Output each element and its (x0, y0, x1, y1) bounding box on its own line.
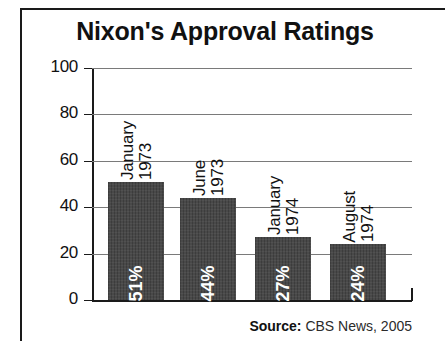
category-label-3: January1974 (255, 155, 311, 235)
source-text: CBS News, 2005 (305, 318, 412, 334)
category-label-line: 1974 (359, 205, 376, 242)
y-tick-label: 100 (32, 57, 78, 77)
y-tick-label: 0 (32, 289, 78, 309)
y-tick-80 (84, 114, 92, 115)
source-note: Source: CBS News, 2005 (150, 318, 412, 334)
source-label: Source: (249, 318, 301, 334)
bar-1: 51% (108, 182, 164, 300)
gridline-100 (92, 68, 412, 69)
bar-2: 44% (180, 198, 236, 300)
category-label-line: 1973 (209, 159, 226, 196)
figure-frame-top-rule (20, 8, 445, 10)
y-tick-label: 40 (32, 196, 78, 216)
category-label-4: August1974 (330, 162, 386, 242)
y-tick-60 (84, 161, 92, 162)
category-label-line: January (119, 121, 136, 180)
category-label-line: 1974 (284, 198, 301, 235)
category-label-line: 1973 (137, 143, 154, 180)
bar-value-label: 51% (126, 265, 147, 301)
y-tick-label: 80 (32, 103, 78, 123)
bar-3: 27% (255, 237, 311, 300)
chart-title: Nixon's Approval Ratings (28, 17, 422, 46)
y-tick-100 (84, 68, 92, 69)
y-tick-40 (84, 207, 92, 208)
y-tick-label: 60 (32, 150, 78, 170)
figure-frame-left-rule (20, 8, 22, 341)
x-axis-right-stub (411, 288, 413, 301)
bar-value-label: 27% (273, 265, 294, 301)
chart-figure: Nixon's Approval Ratings 020406080100 51… (0, 0, 447, 343)
category-label-1: January1973 (108, 100, 164, 180)
category-label-line: January (266, 176, 283, 235)
y-tick-20 (84, 254, 92, 255)
bar-value-label: 24% (348, 265, 369, 301)
y-tick-0 (84, 300, 92, 301)
category-label-2: June1973 (180, 116, 236, 196)
bar-4: 24% (330, 244, 386, 300)
y-tick-label: 20 (32, 243, 78, 263)
bar-value-label: 44% (198, 265, 219, 301)
category-label-line: June (191, 160, 208, 196)
category-label-line: August (341, 191, 358, 243)
